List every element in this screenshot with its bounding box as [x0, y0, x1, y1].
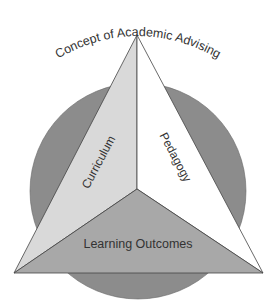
learning-outcomes-label: Learning Outcomes: [83, 237, 192, 251]
academic-advising-diagram: Concept of Academic Advising Curriculum …: [0, 0, 275, 308]
